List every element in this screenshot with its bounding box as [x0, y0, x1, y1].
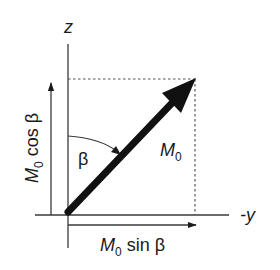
angle-arc-arrowhead: [111, 146, 121, 155]
vector-diagram: z -y β M0 M0 sin β M0 cos β: [0, 0, 280, 270]
angle-label: β: [78, 149, 88, 169]
z-axis-label: z: [63, 17, 73, 37]
sin-component-label: M0 sin β: [100, 235, 165, 259]
cos-component-label: M0 cos β: [22, 113, 46, 183]
vector-label: M0: [160, 140, 182, 164]
magnetization-vector: [68, 78, 196, 212]
angle-arc: [68, 136, 118, 152]
y-axis-label: -y: [240, 205, 256, 225]
